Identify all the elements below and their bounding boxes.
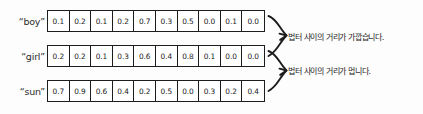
vector-cell: 0.0: [178, 81, 200, 101]
vector-row-girl: 0.2 0.2 0.1 0.3 0.6 0.4 0.8 0.1 0.0 0.0: [47, 45, 265, 67]
annotation-close-distance: 법터 사이의 거리가 가깝습니다.: [288, 31, 384, 42]
vector-cell: 0.2: [70, 11, 92, 31]
vector-cell: 0.8: [178, 46, 200, 66]
vector-cell: 0.2: [113, 11, 135, 31]
vector-cell: 0.1: [221, 11, 243, 31]
vector-cell: 0.0: [199, 11, 221, 31]
vector-cell: 0.4: [156, 46, 178, 66]
vector-cell: 0.1: [199, 46, 221, 66]
vector-cell: 0.6: [91, 81, 113, 101]
vector-cell: 0.7: [48, 81, 70, 101]
curly-brace-icon: [266, 49, 288, 93]
vector-cell: 0.9: [70, 81, 92, 101]
vector-cell: 0.4: [242, 81, 264, 101]
vector-cell: 0.1: [48, 11, 70, 31]
vector-cell: 0.5: [156, 81, 178, 101]
vector-cell: 0.2: [221, 81, 243, 101]
vector-row-boy: 0.1 0.2 0.1 0.2 0.7 0.3 0.5 0.0 0.1 0.0: [47, 10, 265, 32]
word-label-girl: “girl”: [0, 51, 45, 62]
vector-cell: 0.3: [156, 11, 178, 31]
vector-cell: 0.7: [134, 11, 156, 31]
vector-cell: 0.3: [199, 81, 221, 101]
vector-cell: 0.2: [48, 46, 70, 66]
vector-cell: 0.1: [91, 11, 113, 31]
word-label-sun: “sun”: [0, 86, 45, 97]
vector-row-sun: 0.7 0.9 0.6 0.4 0.2 0.5 0.0 0.3 0.2 0.4: [47, 80, 265, 102]
vector-cell: 0.2: [70, 46, 92, 66]
vector-cell: 0.0: [221, 46, 243, 66]
vector-cell: 0.1: [91, 46, 113, 66]
vector-cell: 0.5: [178, 11, 200, 31]
vector-cell: 0.2: [134, 81, 156, 101]
annotation-far-distance: 법터 사이의 거리가 멉니다.: [288, 65, 371, 76]
vector-distance-diagram: “boy” 0.1 0.2 0.1 0.2 0.7 0.3 0.5 0.0 0.…: [0, 0, 423, 114]
vector-cell: 0.0: [242, 46, 264, 66]
vector-cell: 0.4: [113, 81, 135, 101]
vector-cell: 0.0: [242, 11, 264, 31]
vector-cell: 0.6: [134, 46, 156, 66]
word-label-boy: “boy”: [0, 16, 45, 27]
vector-cell: 0.3: [113, 46, 135, 66]
